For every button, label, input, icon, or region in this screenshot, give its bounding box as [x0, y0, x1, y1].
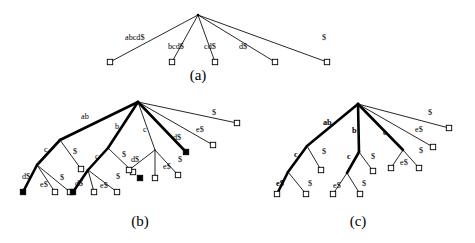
leaf-node — [126, 167, 131, 172]
leaf-node — [114, 189, 119, 194]
edge-label: c — [95, 152, 99, 161]
leaf-node — [210, 142, 215, 147]
leaf-node — [91, 189, 96, 194]
suffix-tree-figure: abcd$bcd$cd$d$$(a)abbcd$e$$c$d$e$$c$d$e$… — [0, 0, 475, 243]
leaf-node — [107, 59, 112, 64]
leaf-node — [274, 191, 279, 196]
leaf-node — [272, 59, 277, 64]
leaf-node — [370, 168, 375, 173]
leaf-node — [175, 172, 180, 177]
panel-caption-b: (b) — [131, 213, 149, 230]
leaf-node — [357, 191, 362, 196]
edge-label: $ — [212, 108, 216, 117]
panel-b: abbcd$e$$c$d$e$$c$d$e$$d$e$$(b) — [20, 101, 239, 230]
edge-label: e$ — [415, 125, 423, 134]
edge-label: $ — [116, 172, 120, 181]
edge-label: e$ — [276, 179, 284, 188]
edge-label: c — [347, 152, 351, 161]
edge-label: d$ — [131, 155, 139, 164]
edge-label: $ — [419, 146, 423, 155]
leaf-node — [78, 166, 83, 171]
edge-label: bcd$ — [168, 42, 184, 51]
root-node — [357, 103, 360, 106]
root-node — [137, 101, 140, 104]
tree-edge — [138, 102, 237, 123]
leaf-node — [169, 59, 174, 64]
edge-label: abcd$ — [125, 33, 145, 42]
panel-c: abbce$$c$e$$c$e$$e$$(c) — [274, 103, 451, 230]
tree-edge — [307, 146, 321, 170]
leaf-node — [324, 59, 329, 64]
edge-label: e$ — [400, 158, 408, 167]
edge-label: $ — [322, 33, 326, 42]
panel-a-edge-labels: abcd$bcd$cd$d$$ — [125, 33, 326, 51]
tree-edge — [358, 104, 359, 152]
edge-label: b — [115, 122, 119, 131]
tree-edge — [198, 15, 327, 62]
panel-caption-a: (a) — [190, 67, 207, 84]
panel-c-edge-labels: abbce$$c$e$$c$e$$e$$ — [276, 108, 432, 190]
tree-edge — [358, 104, 403, 150]
leaf-node-marked — [20, 189, 25, 194]
edge-label: d$ — [22, 172, 30, 181]
tree-edge — [88, 170, 94, 192]
edge-label: e$ — [163, 162, 171, 171]
panel-b-leaves — [20, 120, 239, 194]
tree-canvas: abcd$bcd$cd$d$$(a)abbcd$e$$c$d$e$$c$d$e$… — [0, 0, 475, 243]
leaf-node — [446, 125, 451, 130]
leaf-node — [303, 191, 308, 196]
leaf-node — [52, 189, 57, 194]
leaf-node-marked — [137, 175, 142, 180]
edge-label: d$ — [239, 42, 247, 51]
leaf-node-marked — [70, 189, 75, 194]
edge-label: $ — [428, 108, 432, 117]
leaf-node — [234, 120, 239, 125]
edge-label: c — [383, 128, 387, 137]
edge-label: d$ — [75, 179, 83, 188]
tree-edge — [60, 140, 81, 169]
leaf-node-marked — [183, 149, 188, 154]
edge-label: $ — [122, 150, 126, 159]
leaf-node — [318, 167, 323, 172]
edge-label: e$ — [196, 125, 204, 134]
panels-layer: abcd$bcd$cd$d$$(a)abbcd$e$$c$d$e$$c$d$e$… — [20, 14, 451, 230]
edge-label: c — [143, 125, 147, 134]
edge-label: e$ — [100, 181, 108, 190]
tree-edge — [307, 104, 358, 146]
leaf-node — [152, 175, 157, 180]
leaf-node — [212, 59, 217, 64]
panel-a-leaves — [107, 59, 329, 64]
edge-label: ab — [323, 118, 332, 127]
edge-label: cd$ — [204, 42, 216, 51]
edge-label: $ — [322, 147, 326, 156]
leaf-node — [330, 191, 335, 196]
tree-edge — [198, 15, 215, 62]
edge-label: e$ — [40, 180, 48, 189]
leaf-node — [416, 165, 421, 170]
edge-label: $ — [371, 152, 375, 161]
tree-edge — [37, 140, 60, 165]
edge-label: e$ — [333, 181, 341, 190]
panel-caption-c: (c) — [350, 213, 367, 230]
edge-label: $ — [362, 179, 366, 188]
panel-a: abcd$bcd$cd$d$$(a) — [107, 14, 329, 84]
tree-edge — [358, 104, 449, 128]
root-node — [197, 14, 200, 17]
tree-edge — [288, 172, 306, 194]
edge-label: d$ — [173, 133, 181, 142]
edge-label: ab — [81, 112, 89, 121]
panel-b-edges — [23, 102, 237, 192]
edge-label: $ — [308, 179, 312, 188]
edge-label: c — [294, 150, 298, 159]
edge-label: b — [352, 126, 357, 135]
edge-label: c — [44, 145, 48, 154]
edge-label: $ — [178, 155, 182, 164]
edge-label: $ — [73, 147, 77, 156]
edge-label: $ — [60, 173, 64, 182]
leaf-node — [388, 165, 393, 170]
leaf-node — [430, 144, 435, 149]
